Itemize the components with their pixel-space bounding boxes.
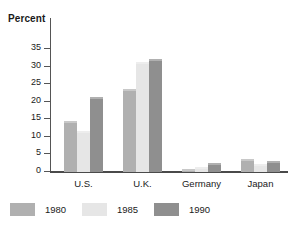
bar [182, 169, 195, 172]
y-axis-tick [44, 83, 50, 84]
bar-highlight [182, 169, 195, 171]
legend: 198019851990 [10, 202, 292, 218]
legend-item[interactable]: 1980 [10, 202, 66, 216]
legend-item[interactable]: 1990 [154, 202, 210, 216]
bar-highlight [77, 131, 90, 133]
bar-highlight [254, 164, 267, 166]
bar [195, 167, 208, 172]
legend-item[interactable]: 1985 [82, 202, 138, 216]
y-axis-tick [44, 136, 50, 137]
legend-swatch [10, 203, 35, 216]
y-axis-tick [44, 171, 50, 172]
bar-highlight [90, 97, 103, 99]
bar [77, 131, 90, 172]
y-axis-tick [44, 66, 50, 67]
bar [64, 121, 77, 172]
y-axis-tick [44, 118, 50, 119]
y-axis-tick [44, 48, 50, 49]
y-axis-label: 15 [10, 112, 41, 122]
y-axis-label: 30 [10, 60, 41, 70]
bar [136, 62, 149, 172]
y-axis-label: 25 [10, 77, 41, 87]
y-axis-tick [44, 101, 50, 102]
bar-highlight [241, 159, 254, 161]
y-axis-tick [44, 153, 50, 154]
x-axis-label: Japan [226, 178, 296, 189]
bar [90, 97, 103, 172]
plot-area [51, 48, 288, 172]
y-axis-label: 0 [10, 165, 41, 175]
y-axis-label: 20 [10, 95, 41, 105]
bar [254, 164, 267, 172]
y-axis-label: 35 [10, 42, 41, 52]
bar-highlight [208, 163, 221, 165]
legend-label: 1985 [117, 204, 138, 215]
bar [123, 89, 136, 172]
legend-label: 1990 [189, 204, 210, 215]
bar [241, 159, 254, 172]
y-axis-title: Percent [8, 13, 45, 24]
legend-label: 1980 [45, 204, 66, 215]
bar-highlight [149, 59, 162, 61]
bar [149, 59, 162, 172]
bar-highlight [195, 167, 208, 169]
y-axis-label: 5 [10, 147, 41, 157]
bar-highlight [267, 161, 280, 163]
bar-highlight [136, 62, 149, 64]
legend-swatch [154, 203, 179, 216]
bar-highlight [123, 89, 136, 91]
bar-chart: Percent 05101520253035 U.S.U.K.GermanyJa… [0, 0, 302, 234]
bar [208, 163, 221, 172]
y-axis-label: 10 [10, 130, 41, 140]
legend-swatch [82, 203, 107, 216]
bar [267, 161, 280, 172]
bar-highlight [64, 121, 77, 123]
